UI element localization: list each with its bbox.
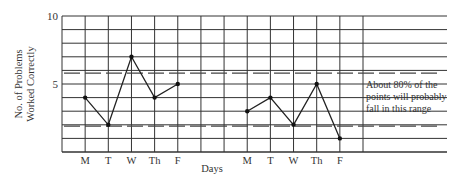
x-tick-label: Th xyxy=(311,155,323,166)
data-point xyxy=(176,82,180,86)
data-point xyxy=(106,123,110,127)
y-tick-10: 10 xyxy=(47,10,59,22)
chart: 10 5 No. of Problems Worked Correctly MT… xyxy=(0,0,462,183)
x-tick-label: F xyxy=(337,155,343,166)
annotation-line3: fall in this range xyxy=(366,103,432,114)
x-tick-label: W xyxy=(289,155,299,166)
data-point xyxy=(129,55,133,59)
y-axis-label: No. of Problems Worked Correctly xyxy=(13,46,36,122)
x-tick-label: W xyxy=(127,155,137,166)
data-point xyxy=(152,95,156,99)
data-point xyxy=(245,109,249,113)
y-tick-5: 5 xyxy=(53,78,59,90)
data-point xyxy=(291,123,295,127)
x-tick-label: M xyxy=(80,155,90,166)
data-point xyxy=(268,95,272,99)
x-tick-label: Th xyxy=(149,155,161,166)
annotation-line2: points will probably xyxy=(366,91,447,102)
y-axis-label-line1: No. of Problems xyxy=(13,49,24,118)
annotation-line1: About 80% of the xyxy=(366,79,438,90)
x-tick-label: F xyxy=(175,155,181,166)
x-axis-label: Days xyxy=(201,163,223,174)
y-axis-label-line2: Worked Correctly xyxy=(25,46,36,122)
annotation: About 80% of the points will probably fa… xyxy=(366,79,447,114)
data-point xyxy=(338,136,342,140)
x-tick-label: T xyxy=(105,155,112,166)
data-point xyxy=(314,82,318,86)
x-tick-label: T xyxy=(267,155,274,166)
x-tick-label: M xyxy=(243,155,253,166)
data-point xyxy=(83,95,87,99)
